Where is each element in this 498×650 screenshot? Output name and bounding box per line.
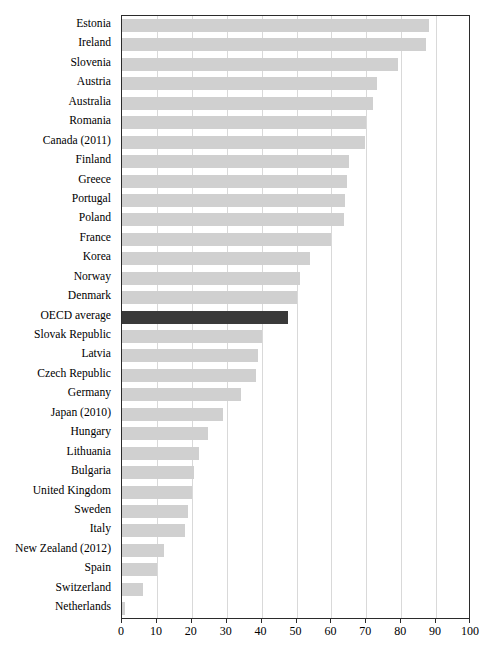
bar bbox=[122, 272, 300, 285]
tick-mark bbox=[261, 619, 262, 623]
bar-row bbox=[122, 113, 469, 132]
tick-mark bbox=[365, 619, 366, 623]
bar bbox=[122, 97, 373, 110]
x-tick-label: 50 bbox=[290, 624, 302, 639]
bar bbox=[122, 252, 310, 265]
bar bbox=[122, 563, 157, 576]
bar bbox=[122, 349, 258, 362]
bar bbox=[122, 58, 398, 71]
category-label: New Zealand (2012) bbox=[0, 539, 116, 558]
category-label: Germany bbox=[0, 383, 116, 402]
x-tick-label: 30 bbox=[220, 624, 232, 639]
category-label: Poland bbox=[0, 208, 116, 227]
bar-row bbox=[122, 521, 469, 540]
bar-row bbox=[122, 269, 469, 288]
bar bbox=[122, 213, 344, 226]
bar bbox=[122, 136, 365, 149]
x-tick-label: 60 bbox=[324, 624, 336, 639]
plot-area bbox=[121, 15, 470, 619]
category-label: Finland bbox=[0, 150, 116, 169]
bar bbox=[122, 544, 164, 557]
bar-row bbox=[122, 444, 469, 463]
category-label: Japan (2010) bbox=[0, 403, 116, 422]
category-label: France bbox=[0, 228, 116, 247]
bar-row bbox=[122, 385, 469, 404]
x-tick-label: 10 bbox=[150, 624, 162, 639]
x-tick-label: 100 bbox=[461, 624, 479, 639]
bar-row bbox=[122, 502, 469, 521]
bar-chart: EstoniaIrelandSloveniaAustriaAustraliaRo… bbox=[0, 0, 498, 650]
category-label: Australia bbox=[0, 92, 116, 111]
tick-mark bbox=[226, 619, 227, 623]
bar-row bbox=[122, 424, 469, 443]
category-label: Hungary bbox=[0, 422, 116, 441]
x-axis-tick-labels: 0102030405060708090100 bbox=[0, 624, 498, 644]
bar bbox=[122, 194, 345, 207]
category-label: Spain bbox=[0, 558, 116, 577]
tick-mark bbox=[156, 619, 157, 623]
bar bbox=[122, 116, 366, 129]
bar bbox=[122, 505, 188, 518]
bar-row bbox=[122, 288, 469, 307]
bar-row bbox=[122, 346, 469, 365]
bars-container bbox=[122, 16, 469, 618]
category-label: Italy bbox=[0, 519, 116, 538]
bar bbox=[122, 330, 262, 343]
category-label: Korea bbox=[0, 247, 116, 266]
bar-row bbox=[122, 366, 469, 385]
bar bbox=[122, 486, 192, 499]
tick-mark bbox=[435, 619, 436, 623]
bar-row bbox=[122, 55, 469, 74]
bar bbox=[122, 447, 199, 460]
bar bbox=[122, 408, 223, 421]
category-label: OECD average bbox=[0, 306, 116, 325]
category-label: Portugal bbox=[0, 189, 116, 208]
bar-highlight bbox=[122, 311, 288, 324]
bar-row bbox=[122, 172, 469, 191]
tick-mark bbox=[330, 619, 331, 623]
category-label: United Kingdom bbox=[0, 481, 116, 500]
category-label: Latvia bbox=[0, 344, 116, 363]
category-label: Czech Republic bbox=[0, 364, 116, 383]
category-label: Ireland bbox=[0, 33, 116, 52]
bar bbox=[122, 77, 377, 90]
bar-row bbox=[122, 405, 469, 424]
category-label: Sweden bbox=[0, 500, 116, 519]
bar bbox=[122, 466, 194, 479]
category-label: Austria bbox=[0, 72, 116, 91]
x-tick-label: 0 bbox=[118, 624, 124, 639]
category-label: Norway bbox=[0, 267, 116, 286]
x-tick-label: 20 bbox=[185, 624, 197, 639]
bar-row bbox=[122, 599, 469, 618]
category-label: Slovak Republic bbox=[0, 325, 116, 344]
tick-mark bbox=[296, 619, 297, 623]
bar bbox=[122, 38, 426, 51]
tick-mark bbox=[469, 619, 470, 623]
bar-row bbox=[122, 560, 469, 579]
bar bbox=[122, 388, 241, 401]
x-tick-label: 80 bbox=[394, 624, 406, 639]
category-label: Netherlands bbox=[0, 597, 116, 616]
bar-row bbox=[122, 580, 469, 599]
bar-row bbox=[122, 74, 469, 93]
bar-row bbox=[122, 308, 469, 327]
bar bbox=[122, 427, 208, 440]
bar bbox=[122, 369, 256, 382]
bar bbox=[122, 583, 143, 596]
tick-mark bbox=[191, 619, 192, 623]
bar bbox=[122, 19, 429, 32]
category-label: Canada (2011) bbox=[0, 131, 116, 150]
bar bbox=[122, 233, 331, 246]
tick-mark bbox=[400, 619, 401, 623]
x-tick-label: 40 bbox=[255, 624, 267, 639]
bar-row bbox=[122, 230, 469, 249]
bar bbox=[122, 155, 349, 168]
category-label: Denmark bbox=[0, 286, 116, 305]
category-axis-labels: EstoniaIrelandSloveniaAustriaAustraliaRo… bbox=[0, 14, 116, 617]
bar bbox=[122, 291, 297, 304]
bar-row bbox=[122, 191, 469, 210]
bar-row bbox=[122, 35, 469, 54]
bar-row bbox=[122, 16, 469, 35]
bar bbox=[122, 602, 125, 615]
bar-row bbox=[122, 483, 469, 502]
